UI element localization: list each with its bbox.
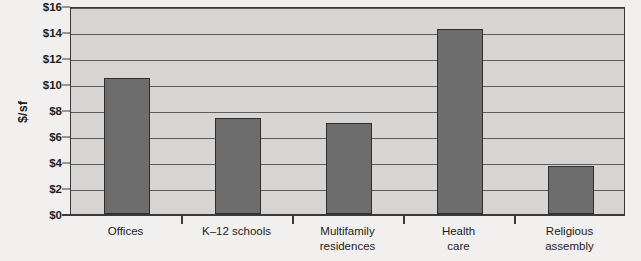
y-axis-tick-marks bbox=[62, 7, 70, 215]
x-axis-tick-labels: OfficesK–12 schoolsMultifamilyresidences… bbox=[70, 224, 625, 260]
y-axis-tick-label: $16 bbox=[43, 1, 62, 13]
y-axis-tick-mark bbox=[62, 163, 70, 164]
x-axis-tick-label: Offices bbox=[70, 224, 181, 239]
x-axis-tick-label-line: Health bbox=[403, 224, 514, 239]
x-axis-tick-mark bbox=[292, 215, 294, 224]
y-axis-tick-mark bbox=[62, 137, 70, 138]
y-axis-tick-mark bbox=[62, 33, 70, 34]
bar bbox=[104, 78, 150, 215]
y-axis-tick-mark bbox=[62, 111, 70, 112]
bar bbox=[326, 123, 372, 214]
y-axis-tick-label: $10 bbox=[43, 79, 62, 91]
x-axis-tick-marks bbox=[70, 215, 625, 224]
x-axis-tick-label-line: assembly bbox=[514, 239, 625, 254]
y-axis-tick-mark bbox=[62, 7, 70, 8]
x-axis-tick-label: Religiousassembly bbox=[514, 224, 625, 253]
plot-area bbox=[70, 7, 625, 215]
x-axis-tick-label: K–12 schools bbox=[181, 224, 292, 239]
y-axis-tick-label: $0 bbox=[49, 209, 62, 221]
x-axis-tick-mark bbox=[514, 215, 516, 224]
y-axis-tick-label: $2 bbox=[49, 183, 62, 195]
x-axis-tick-label-line: residences bbox=[292, 239, 403, 254]
x-axis-tick-label-line: Religious bbox=[514, 224, 625, 239]
bars-layer bbox=[71, 8, 624, 214]
y-axis-tick-mark bbox=[62, 59, 70, 60]
y-axis-tick-mark bbox=[62, 189, 70, 190]
x-axis-tick-label-line: care bbox=[403, 239, 514, 254]
x-axis-tick-label: Healthcare bbox=[403, 224, 514, 253]
y-axis-tick-label: $6 bbox=[49, 131, 62, 143]
y-axis-tick-label: $8 bbox=[49, 105, 62, 117]
y-axis-tick-label: $12 bbox=[43, 53, 62, 65]
y-axis-tick-label: $4 bbox=[49, 157, 62, 169]
y-axis-tick-labels: $0$2$4$6$8$10$12$14$16 bbox=[26, 7, 62, 215]
y-axis-tick-label: $14 bbox=[43, 27, 62, 39]
x-axis-tick-label: Multifamilyresidences bbox=[292, 224, 403, 253]
x-axis-tick-label-line: Offices bbox=[70, 224, 181, 239]
bar bbox=[437, 29, 483, 214]
x-axis-tick-mark bbox=[403, 215, 405, 224]
x-axis-tick-mark bbox=[181, 215, 183, 224]
bar bbox=[548, 166, 594, 214]
bar-chart-figure: $/sf $0$2$4$6$8$10$12$14$16 OfficesK–12 … bbox=[0, 0, 641, 261]
bar bbox=[215, 118, 261, 214]
y-axis-tick-mark bbox=[62, 85, 70, 86]
x-axis-tick-label-line: Multifamily bbox=[292, 224, 403, 239]
x-axis-tick-label-line: K–12 schools bbox=[181, 224, 292, 239]
